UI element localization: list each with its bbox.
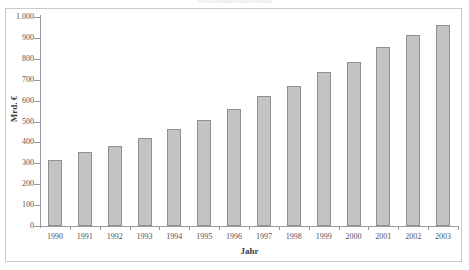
y-axis-tick — [34, 122, 40, 123]
x-axis-tick — [309, 226, 310, 230]
bar-chart-figure: Bruttoinlandsprodukt 0100200300400500600… — [0, 0, 469, 270]
chart-title: Bruttoinlandsprodukt — [0, 0, 469, 3]
x-axis-tick — [339, 226, 340, 230]
y-axis-title: Mrd. € — [9, 79, 19, 139]
x-axis-tick-label: 2003 — [426, 232, 460, 241]
y-axis-tick — [34, 184, 40, 185]
x-axis-tick — [249, 226, 250, 230]
y-axis-tick — [34, 38, 40, 39]
y-axis-tick-label: 300 — [0, 159, 34, 167]
bar — [287, 86, 301, 226]
bar — [317, 72, 331, 226]
bar — [257, 96, 271, 226]
y-axis-tick-label: 1.000 — [0, 13, 34, 21]
y-axis-tick — [34, 226, 40, 227]
y-axis-line — [40, 15, 41, 228]
bar — [197, 120, 211, 226]
y-axis-tick — [34, 163, 40, 164]
bar — [108, 146, 122, 226]
bar — [376, 47, 390, 226]
x-axis-tick — [219, 226, 220, 230]
y-axis-tick — [34, 59, 40, 60]
x-axis-tick — [458, 226, 459, 230]
x-axis-tick — [398, 226, 399, 230]
y-axis-tick — [34, 80, 40, 81]
x-axis-tick — [279, 226, 280, 230]
x-axis-tick — [130, 226, 131, 230]
y-axis-tick-label: 100 — [0, 201, 34, 209]
x-axis-tick — [368, 226, 369, 230]
bar — [406, 35, 420, 226]
x-axis-tick — [100, 226, 101, 230]
x-axis-tick — [70, 226, 71, 230]
y-axis-tick — [34, 142, 40, 143]
y-axis-tick-label: 400 — [0, 138, 34, 146]
y-axis-tick-label: 0 — [0, 222, 34, 230]
bar — [138, 138, 152, 226]
bar — [347, 62, 361, 226]
bar — [167, 129, 181, 226]
x-axis-title: Jahr — [40, 246, 459, 256]
bar — [436, 25, 450, 226]
bar — [48, 160, 62, 226]
y-axis-tick-label: 800 — [0, 55, 34, 63]
y-axis-tick-label: 900 — [0, 34, 34, 42]
x-axis-tick — [159, 226, 160, 230]
y-axis-tick — [34, 101, 40, 102]
y-axis-tick — [34, 205, 40, 206]
bar — [227, 109, 241, 226]
y-axis-tick-label: 200 — [0, 180, 34, 188]
x-axis-tick — [189, 226, 190, 230]
y-axis-tick — [34, 17, 40, 18]
x-axis-tick — [428, 226, 429, 230]
bar — [78, 152, 92, 226]
